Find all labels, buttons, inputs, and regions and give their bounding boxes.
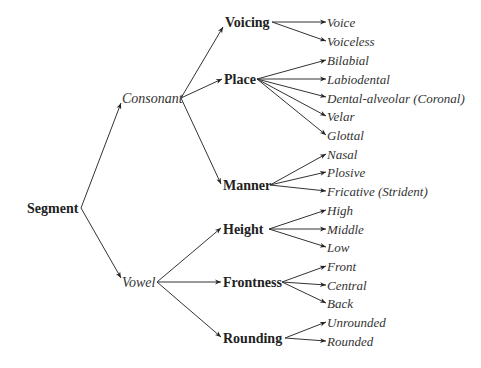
- value-voiceless: Voiceless: [327, 34, 375, 49]
- value-dental-alveolar: Dental-alveolar (Coronal): [326, 91, 465, 106]
- edge-feature-1-value-3: [257, 79, 326, 116]
- value-plosive: Plosive: [326, 165, 365, 180]
- edge-feature-0-value-1: [272, 22, 326, 41]
- edge-feature-3-value-2: [269, 229, 326, 247]
- value-velar: Velar: [327, 109, 355, 124]
- value-middle: Middle: [326, 222, 364, 237]
- tree-edges: [81, 22, 326, 341]
- value-front: Front: [326, 259, 357, 274]
- edge-feature-5-value-0: [285, 322, 326, 338]
- value-fricative: Fricative (Strident): [326, 184, 428, 199]
- edge-vowel-height: [157, 228, 221, 282]
- value-voice: Voice: [327, 15, 355, 30]
- segment-feature-tree: Segment Consonant Vowel Voicing Place Ma…: [0, 0, 481, 368]
- edge-segment-consonant: [81, 103, 121, 208]
- tree-labels: Segment Consonant Vowel Voicing Place Ma…: [27, 15, 465, 349]
- node-consonant: Consonant: [122, 91, 184, 106]
- edge-feature-2-value-2: [270, 185, 326, 191]
- node-segment: Segment: [27, 201, 79, 216]
- edge-feature-4-value-2: [282, 282, 326, 303]
- edge-feature-4-value-1: [282, 282, 326, 285]
- node-height: Height: [223, 222, 264, 237]
- edge-feature-3-value-0: [269, 210, 326, 229]
- edge-segment-vowel: [81, 208, 121, 278]
- edge-consonant-voicing: [181, 27, 223, 98]
- edge-feature-2-value-0: [270, 154, 326, 185]
- node-manner: Manner: [223, 178, 271, 193]
- value-labiodental: Labiodental: [326, 72, 390, 87]
- value-glottal: Glottal: [327, 128, 364, 143]
- value-rounded: Rounded: [326, 334, 374, 349]
- edge-feature-1-value-0: [257, 60, 326, 79]
- value-nasal: Nasal: [326, 147, 358, 162]
- value-low: Low: [326, 240, 350, 255]
- edge-vowel-rounding: [157, 282, 221, 337]
- value-back: Back: [327, 296, 353, 311]
- edge-consonant-manner: [181, 98, 221, 184]
- node-voicing: Voicing: [225, 15, 270, 30]
- node-vowel: Vowel: [122, 275, 156, 290]
- value-unrounded: Unrounded: [327, 315, 386, 330]
- value-high: High: [326, 203, 353, 218]
- edge-feature-1-value-4: [257, 79, 326, 135]
- edge-feature-2-value-1: [270, 172, 326, 185]
- value-bilabial: Bilabial: [327, 53, 369, 68]
- node-place: Place: [224, 72, 256, 87]
- edge-feature-5-value-1: [285, 338, 326, 341]
- edge-feature-4-value-0: [282, 266, 326, 282]
- node-rounding: Rounding: [223, 331, 282, 346]
- node-frontness: Frontness: [223, 275, 282, 290]
- value-central: Central: [327, 278, 367, 293]
